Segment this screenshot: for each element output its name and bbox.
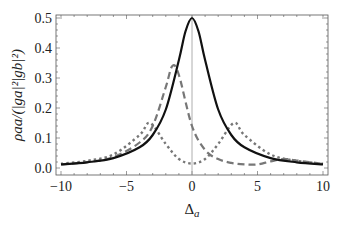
x-tick-label: −5 — [119, 179, 134, 194]
y-tick-label: 0.2 — [35, 101, 53, 116]
x-axis-label: Δa — [184, 201, 200, 219]
x-tick-label: 0 — [189, 179, 196, 194]
y-tick-label: 0.1 — [35, 131, 53, 146]
y-tick-label: 0.3 — [35, 71, 53, 86]
y-axis-label: ρaa/(|ga|²|gb|²) — [9, 49, 26, 142]
line-chart: −10−50510 0.00.10.20.30.40.5 Δa ρaa/(|ga… — [0, 0, 348, 226]
x-tick-label: 5 — [254, 179, 261, 194]
y-tick-labels: 0.00.10.20.30.40.5 — [35, 11, 53, 176]
x-tick-labels: −10−50510 — [50, 179, 330, 194]
y-tick-label: 0.0 — [35, 161, 53, 176]
y-tick-label: 0.5 — [35, 11, 53, 26]
x-tick-label: −10 — [50, 179, 72, 194]
x-tick-label: 10 — [316, 179, 330, 194]
y-tick-label: 0.4 — [35, 41, 53, 56]
